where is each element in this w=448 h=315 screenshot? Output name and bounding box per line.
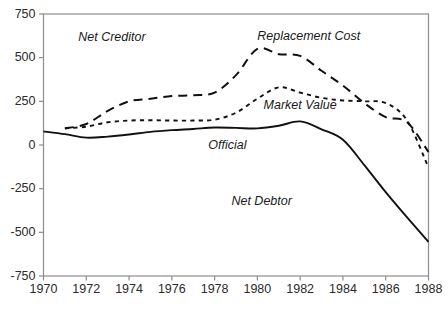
x-tick-label: 1988 <box>415 282 443 296</box>
annotation-official: Official <box>208 138 247 152</box>
y-tick-label: -750 <box>10 269 35 283</box>
x-tick-label: 1980 <box>243 282 271 296</box>
annotation-market-value: Market Value <box>264 98 337 112</box>
y-tick-label: -500 <box>10 225 35 239</box>
y-tick-label: 500 <box>15 50 36 64</box>
x-tick-label: 1978 <box>201 282 229 296</box>
chart-container: 7505002500-250-500-750 19701972197419761… <box>0 0 448 315</box>
y-tick-label: -250 <box>10 181 35 195</box>
x-tick-label: 1984 <box>329 282 357 296</box>
annotation-net-creditor: Net Creditor <box>78 30 146 44</box>
y-tick-label: 750 <box>15 7 36 21</box>
x-axis-ticks: 1970197219741976197819801982198419861988 <box>30 276 443 296</box>
x-tick-label: 1976 <box>158 282 186 296</box>
x-tick-label: 1982 <box>286 282 314 296</box>
y-tick-label: 250 <box>15 94 36 108</box>
y-tick-label: 0 <box>29 138 36 152</box>
annotation-replacement-cost: Replacement Cost <box>257 29 360 43</box>
y-axis-ticks: 7505002500-250-500-750 <box>10 7 43 283</box>
annotation-net-debtor: Net Debtor <box>231 194 292 208</box>
x-tick-label: 1972 <box>72 282 100 296</box>
x-tick-label: 1986 <box>372 282 400 296</box>
line-chart: 7505002500-250-500-750 19701972197419761… <box>0 0 448 315</box>
x-tick-label: 1970 <box>30 282 58 296</box>
x-tick-label: 1974 <box>115 282 143 296</box>
